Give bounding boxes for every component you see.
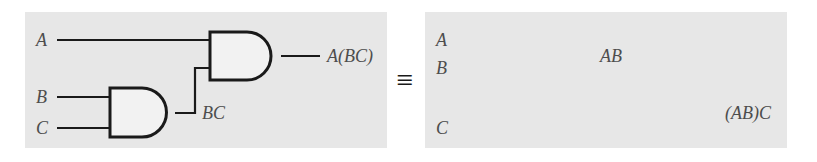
- and-gate-a-bc: [210, 32, 271, 80]
- right-output-label-ab-c: (AB)C: [725, 104, 771, 122]
- logic-circuit-figure: A B C BC A(BC) ≡ A B C AB (AB)C: [0, 0, 817, 162]
- right-input-label-c: C: [436, 119, 448, 137]
- left-input-label-a: A: [36, 31, 47, 49]
- left-output-label-a-bc: A(BC): [327, 47, 373, 65]
- equivalence-symbol: ≡: [390, 58, 420, 102]
- right-intermediate-label-ab: AB: [600, 47, 622, 65]
- right-input-label-a: A: [436, 31, 447, 49]
- and-gate-bc: [110, 88, 166, 137]
- left-input-label-b: B: [36, 88, 47, 106]
- left-intermediate-label-bc: BC: [202, 104, 225, 122]
- right-input-label-b: B: [436, 59, 447, 77]
- left-input-label-c: C: [36, 119, 48, 137]
- right-circuit-panel: [425, 12, 787, 148]
